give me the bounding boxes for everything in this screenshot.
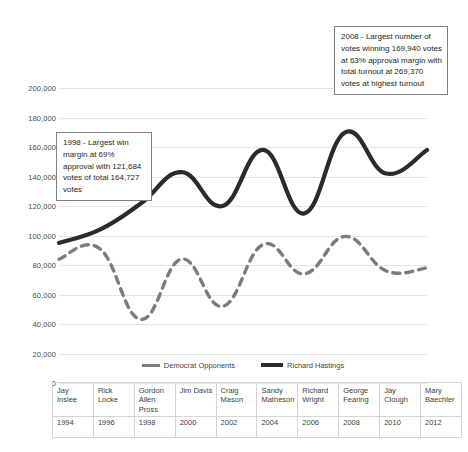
table-cell-candidate: Jim Davis bbox=[175, 383, 216, 417]
table-cell-candidate: George Fearing bbox=[339, 383, 380, 417]
y-tick-label: 40,000 bbox=[32, 320, 56, 329]
table-cell-year: 2006 bbox=[298, 417, 339, 438]
y-tick-label: 140,000 bbox=[28, 172, 56, 181]
table-cell-year: 2012 bbox=[421, 417, 462, 438]
y-tick-label: 80,000 bbox=[32, 261, 56, 270]
y-tick-label: 20,000 bbox=[32, 349, 56, 358]
y-tick-label: 100,000 bbox=[28, 231, 56, 240]
table-row-years: 1994 1996 1998 2000 2002 2004 2006 2008 … bbox=[53, 417, 462, 438]
table-cell-candidate: Gordon Allen Pross bbox=[134, 383, 175, 417]
category-table: Jay Inslee Rick Locke Gordon Allen Pross… bbox=[52, 382, 462, 438]
table-cell-year: 2010 bbox=[380, 417, 421, 438]
y-tick-label: 60,000 bbox=[32, 290, 56, 299]
table-cell-candidate: Richard Wright bbox=[298, 383, 339, 417]
table-cell-candidate: Rick Locke bbox=[93, 383, 134, 417]
democrat-opponents-line bbox=[59, 236, 427, 319]
table-cell-candidate: Jay Clough bbox=[380, 383, 421, 417]
legend-label: Richard Hastings bbox=[287, 361, 344, 370]
y-tick-label: 120,000 bbox=[28, 202, 56, 211]
table-cell-year: 1996 bbox=[93, 417, 134, 438]
election-votes-line-chart: 0 20,000 40,000 60,000 80,000 100,000 12… bbox=[0, 0, 468, 452]
y-tick-label: 160,000 bbox=[28, 143, 56, 152]
legend-label: Democrat Opponents bbox=[164, 361, 235, 370]
table-cell-year: 2004 bbox=[257, 417, 298, 438]
chart-legend: Democrat Opponents Richard Hastings bbox=[59, 358, 427, 372]
y-axis: 0 20,000 40,000 60,000 80,000 100,000 12… bbox=[6, 88, 56, 383]
table-cell-candidate: Craig Mason bbox=[216, 383, 257, 417]
annotation-callout-1998: 1998 - Largest win margin at 69% approva… bbox=[56, 132, 152, 201]
table-cell-year: 1998 bbox=[134, 417, 175, 438]
legend-item-richard-hastings[interactable]: Richard Hastings bbox=[261, 361, 344, 370]
table-cell-year: 2008 bbox=[339, 417, 380, 438]
table-cell-candidate: Jay Inslee bbox=[53, 383, 94, 417]
table-cell-year: 2000 bbox=[175, 417, 216, 438]
dashed-line-swatch-icon bbox=[142, 364, 160, 367]
table-cell-candidate: Sandy Matheson bbox=[257, 383, 298, 417]
y-tick-label: 200,000 bbox=[28, 84, 56, 93]
table-cell-year: 1994 bbox=[53, 417, 94, 438]
annotation-callout-2008: 2008 - Largest number of votes winning 1… bbox=[334, 26, 448, 95]
table-cell-year: 2002 bbox=[216, 417, 257, 438]
y-tick-label: 180,000 bbox=[28, 113, 56, 122]
solid-line-swatch-icon bbox=[261, 363, 283, 367]
legend-item-democrat-opponents[interactable]: Democrat Opponents bbox=[142, 361, 235, 370]
table-cell-candidate: Mary Baechler bbox=[421, 383, 462, 417]
table-row-candidate-names: Jay Inslee Rick Locke Gordon Allen Pross… bbox=[53, 383, 462, 417]
